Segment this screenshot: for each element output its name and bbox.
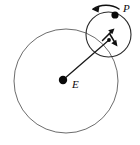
earth-body bbox=[59, 76, 67, 84]
diagram-canvas: E P bbox=[0, 0, 140, 145]
epicycle-diagram: E P bbox=[0, 0, 140, 145]
epicycle-center-body bbox=[107, 38, 111, 42]
planet-label: P bbox=[122, 2, 130, 14]
earth-label: E bbox=[71, 78, 79, 90]
planet-body bbox=[111, 11, 118, 18]
deferent-radius-line bbox=[64, 40, 109, 79]
